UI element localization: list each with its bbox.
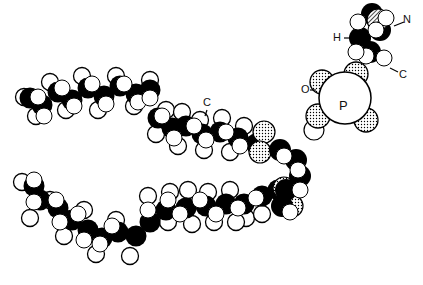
hydrogen-atom: [140, 202, 156, 218]
hydrogen-atom: [48, 192, 64, 208]
hydrogen-atom: [376, 50, 392, 66]
hydrogen-atom: [282, 204, 298, 220]
hydrogen-atom: [276, 148, 292, 164]
hydrogen-atom: [122, 248, 139, 265]
oxygen-atom: [253, 121, 275, 143]
hydrogen-atom: [66, 98, 82, 114]
hydrogen-atom: [248, 190, 264, 206]
hydrogen-atom: [186, 118, 202, 134]
hydrogen-atom: [232, 138, 248, 154]
hydrogen-atom: [142, 90, 158, 106]
nitrogen-label: N: [403, 14, 411, 25]
choline-head-group: [348, 3, 394, 66]
oxygen-label: O: [301, 84, 310, 95]
hydrogen-atom: [22, 210, 39, 227]
phospholipid-diagram: N H C O P C: [0, 0, 423, 285]
hydrogen-atom: [84, 76, 100, 92]
hydrogen-atom: [26, 194, 42, 210]
hydrogen-atom: [292, 182, 308, 198]
lower-fatty-acid-chain: [14, 172, 289, 265]
phosphorus-label: P: [339, 99, 348, 112]
hydrogen-atom: [208, 206, 224, 222]
hydrogen-atom: [218, 124, 234, 140]
hydrogen-atom: [154, 108, 170, 124]
hydrogen-atom: [290, 162, 306, 178]
hydrogen-atom: [116, 76, 132, 92]
hydrogen-atom: [30, 89, 46, 105]
hydrogen-atom: [368, 22, 384, 38]
hydrogen-atom: [92, 236, 108, 252]
hydrogen-atom: [230, 200, 246, 216]
hydrogen-atom: [98, 96, 114, 112]
molecule-svg: [0, 0, 423, 285]
hydrogen-atom: [348, 44, 364, 60]
hydrogen-atom: [350, 14, 366, 30]
oxygen-atom: [249, 141, 271, 163]
hydrogen-atom: [70, 206, 86, 222]
hydrogen-atom: [52, 214, 68, 230]
hydrogen-atom: [26, 172, 42, 188]
upper-fatty-acid-chain: [16, 68, 271, 161]
hydrogen-atom: [172, 206, 188, 222]
carbon-chain-label: C: [203, 97, 211, 108]
hydrogen-atom: [166, 130, 182, 146]
hydrogen-atom: [54, 80, 70, 96]
hydrogen-atom: [76, 232, 92, 248]
hydrogen-atom: [192, 192, 208, 208]
hydrogen-label: H: [333, 32, 341, 43]
hydrogen-atom: [160, 192, 176, 208]
hydrogen-atom: [104, 218, 120, 234]
hydrogen-atom: [198, 132, 214, 148]
carbon-head-label: C: [399, 69, 407, 80]
hydrogen-atom: [254, 206, 271, 223]
hydrogen-atom: [36, 108, 52, 124]
